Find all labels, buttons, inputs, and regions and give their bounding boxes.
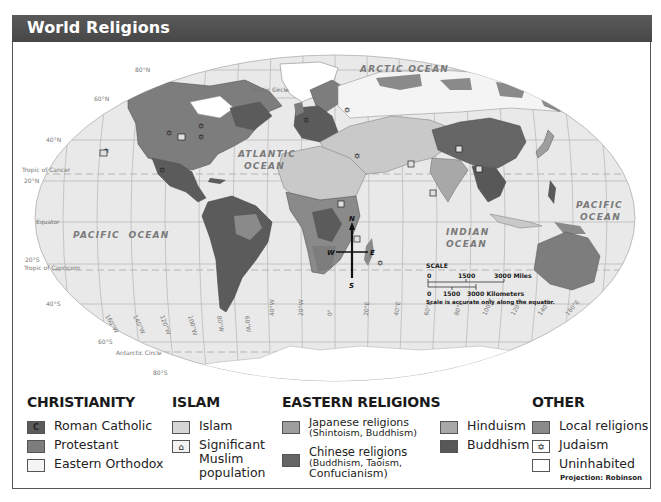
pacific-ocean-east-label-2: OCEAN: [580, 212, 621, 222]
svg-text:✡: ✡: [303, 116, 310, 125]
scale-note: Scale is accurate only along the equator…: [426, 299, 555, 306]
svg-text:0: 0: [427, 272, 432, 279]
svg-text:40°W: 40°W: [268, 299, 275, 316]
legend-item-muslim-population: ⌂ Significant Muslim population: [172, 438, 266, 480]
arctic-circle-label: Arctic Circle: [253, 86, 289, 93]
legend-heading-christianity: CHRISTIANITY: [27, 394, 135, 410]
svg-text:✡: ✡: [198, 133, 205, 142]
world-map: ✡ ✡ ✡ ✡ ✡ ✡ ✡ ✡ ✡ 80°N 60°N Arctic Circl…: [20, 46, 645, 386]
svg-text:✡: ✡: [166, 129, 173, 138]
lat-80s: 80°S: [153, 369, 168, 376]
legend-item-uninhabited: Uninhabited: [532, 457, 635, 472]
legend-item-eastern-orthodox: Eastern Orthodox: [27, 457, 164, 472]
equator-label: Equator: [36, 218, 60, 226]
tropic-capricorn-label: Tropic of Capricorn: [23, 264, 80, 272]
legend-item-chinese-religions: Chinese religions (Buddhism, Taoism, Con…: [282, 446, 407, 480]
pacific-ocean-west-label: PACIFIC OCEAN: [73, 230, 169, 240]
hinduism-swatch: [440, 421, 458, 434]
legend-heading-islam: ISLAM: [172, 394, 220, 410]
compass-e: E: [370, 249, 375, 257]
svg-text:✡: ✡: [344, 106, 351, 115]
legend-heading-other: OTHER: [532, 394, 585, 410]
legend-item-islam: Islam: [172, 419, 233, 434]
svg-text:1500: 1500: [443, 290, 461, 297]
indian-ocean-label-2: OCEAN: [446, 239, 487, 249]
legend-eastern-religions: EASTERN RELIGIONS: [282, 394, 440, 410]
svg-text:1500: 1500: [458, 272, 476, 279]
legend-item-protestant: Protestant: [27, 438, 118, 453]
svg-text:20°W: 20°W: [297, 299, 304, 316]
lat-60n: 60°N: [94, 95, 109, 102]
atlantic-ocean-label-2: OCEAN: [244, 161, 285, 171]
legend-islam: ISLAM: [172, 394, 220, 410]
scale-title: SCALE: [426, 262, 448, 269]
lat-40s: 40°S: [46, 300, 61, 307]
svg-text:✡: ✡: [198, 122, 205, 131]
svg-text:0°: 0°: [326, 309, 333, 316]
japanese-religions-swatch: [282, 421, 300, 434]
lat-60s: 60°S: [98, 338, 113, 345]
antarctic-circle-label: Antarctic Circle: [116, 349, 162, 356]
chinese-religions-swatch: [282, 454, 300, 467]
pacific-ocean-east-label: PACIFIC: [576, 200, 623, 210]
page-title: World Religions: [27, 18, 170, 37]
svg-text:20°E: 20°E: [362, 301, 370, 316]
svg-text:✡: ✡: [159, 166, 166, 175]
compass-w: W: [327, 249, 335, 257]
projection-label: Projection: Robinson: [560, 474, 642, 482]
compass-s: S: [349, 282, 354, 290]
local-religions-swatch: [532, 421, 550, 434]
roman-catholic-swatch: C: [27, 421, 45, 434]
islam-swatch: [172, 421, 190, 434]
svg-text:0: 0: [427, 290, 432, 297]
uninhabited-swatch: [532, 459, 550, 472]
lat-80n: 80°N: [135, 66, 150, 73]
eastern-orthodox-swatch: [27, 459, 45, 472]
muslim-population-swatch: ⌂: [172, 440, 190, 453]
compass-n: N: [349, 215, 355, 223]
svg-text:3000 Kilometers: 3000 Kilometers: [467, 290, 525, 297]
legend-item-judaism: ✡ Judaism: [532, 438, 608, 453]
svg-text:60°W: 60°W: [244, 315, 252, 332]
atlantic-ocean-label: ATLANTIC: [237, 149, 296, 159]
tropic-cancer-label: Tropic of Cancer: [21, 166, 71, 174]
svg-text:✡: ✡: [377, 259, 384, 268]
legend-item-buddhism: Buddhism: [440, 438, 529, 453]
legend-christianity: CHRISTIANITY: [27, 394, 135, 410]
lat-40n: 40°N: [46, 136, 61, 143]
indian-ocean-label: INDIAN: [446, 227, 489, 237]
legend-heading-eastern: EASTERN RELIGIONS: [282, 394, 440, 410]
lat-20s: 20°S: [25, 256, 40, 263]
legend-item-japanese-religions: Japanese religions (Shintoism, Buddhism): [282, 417, 417, 438]
protestant-swatch: [27, 440, 45, 453]
new-zealand: [604, 288, 620, 310]
buddhism-swatch: [440, 440, 458, 453]
arctic-ocean-label: ARCTIC OCEAN: [359, 64, 449, 74]
lat-20n: 20°N: [24, 177, 39, 184]
legend-other: OTHER: [532, 394, 585, 410]
svg-text:✡: ✡: [354, 152, 361, 161]
legend-item-local-religions: Local religions: [532, 419, 648, 434]
antarctica: [20, 346, 645, 386]
svg-text:3000 Miles: 3000 Miles: [494, 272, 532, 279]
legend: CHRISTIANITY C Roman Catholic Protestant…: [12, 388, 652, 488]
legend-item-hinduism: Hinduism: [440, 419, 526, 434]
star-of-david-icon: ✡: [532, 440, 550, 453]
legend-item-roman-catholic: C Roman Catholic: [27, 419, 152, 434]
title-bar: World Religions: [12, 15, 652, 42]
